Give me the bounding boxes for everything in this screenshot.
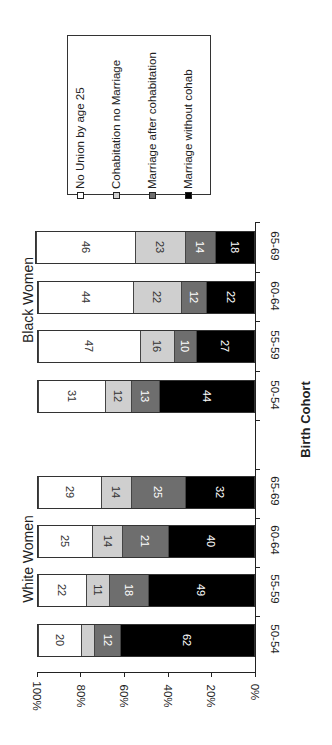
- segment-value-label: 44: [201, 390, 213, 402]
- bar-segment: 25: [38, 526, 92, 557]
- segment-value-label: 22: [225, 291, 237, 303]
- legend-item-no-union: No Union by age 25: [74, 87, 86, 199]
- tick-label-80: 80%: [75, 682, 87, 710]
- legend-label: Cohabitation no Marriage: [110, 60, 122, 189]
- legend-label: Marriage after cohabitation: [146, 52, 158, 189]
- category-label: 55-59: [269, 569, 281, 609]
- bar-segment: 22: [133, 282, 181, 313]
- tick: [255, 518, 260, 519]
- legend-swatch-white-icon: [77, 192, 84, 199]
- segment-value-label: 31: [66, 390, 78, 402]
- tick: [255, 469, 260, 470]
- segment-value-label: 14: [110, 486, 122, 498]
- category-label: 60-64: [269, 520, 281, 560]
- category-label: 55-59: [269, 325, 281, 365]
- segment-value-label: 14: [102, 535, 114, 547]
- group-title-black: Black Women: [20, 250, 36, 350]
- bar-black-55-59: 27101647: [37, 330, 255, 363]
- tick: [80, 672, 81, 677]
- segment-value-label: 18: [123, 584, 135, 596]
- segment-value-label: 13: [139, 390, 151, 402]
- category-label: 65-69: [269, 226, 281, 266]
- bar-white-55-59: 49181122: [37, 574, 255, 607]
- tick: [255, 371, 260, 372]
- tick: [255, 567, 260, 568]
- bar-segment: 44: [38, 282, 133, 313]
- chart-figure: No Union by age 25 Cohabitation no Marri…: [0, 0, 332, 745]
- segment-value-label: 18: [229, 241, 241, 253]
- segment-value-label: 12: [112, 390, 124, 402]
- bar-black-65-69: 18142346: [35, 231, 255, 264]
- tick-label-20: 20%: [205, 682, 217, 710]
- segment-value-label: 29: [64, 486, 76, 498]
- legend-item-marriage-without-cohab: Marriage without cohab: [182, 69, 194, 199]
- segment-value-label: 14: [194, 241, 206, 253]
- bar-white-60-64: 40211425: [37, 525, 255, 558]
- bar-segment: 14: [185, 232, 215, 263]
- bar-black-50-54: 44131231: [37, 380, 255, 413]
- segment-value-label: 16: [151, 340, 163, 352]
- category-axis-line: [255, 222, 256, 673]
- bar-white-65-69: 32251429: [37, 476, 255, 509]
- segment-value-label: 22: [151, 291, 163, 303]
- tick: [255, 222, 260, 223]
- segment-value-label: 47: [83, 340, 95, 352]
- value-axis-line: [37, 672, 256, 673]
- bar-segment: 23: [135, 232, 185, 263]
- segment-value-label: 46: [80, 241, 92, 253]
- legend-item-cohab-no-marriage: Cohabitation no Marriage: [110, 60, 122, 199]
- bar-segment: 12: [94, 625, 120, 656]
- tick: [37, 672, 38, 677]
- bar-segment: 40: [168, 526, 254, 557]
- category-label: 50-54: [269, 619, 281, 659]
- bar-segment: 46: [36, 232, 135, 263]
- bar-segment: 25: [131, 477, 185, 508]
- segment-value-label: 20: [54, 634, 66, 646]
- bar-black-60-64: 22122244: [37, 281, 255, 314]
- bar-segment: 14: [92, 526, 122, 557]
- bar-segment: 13: [131, 381, 159, 412]
- legend-swatch-black-icon: [185, 192, 192, 199]
- segment-value-label: 22: [56, 584, 68, 596]
- tick: [211, 672, 212, 677]
- segment-value-label: 32: [214, 486, 226, 498]
- legend-label: No Union by age 25: [74, 87, 86, 189]
- bar-segment: 18: [109, 575, 148, 606]
- tick-label-0: 0%: [249, 681, 261, 703]
- tick: [255, 616, 260, 617]
- category-label: 60-64: [269, 276, 281, 316]
- bar-segment: 16: [140, 331, 175, 362]
- segment-value-label: 10: [179, 340, 191, 352]
- segment-value-label: 21: [139, 535, 151, 547]
- segment-value-label: 25: [60, 535, 72, 547]
- legend-swatch-lightgray-icon: [113, 192, 120, 199]
- tick-label-40: 40%: [162, 682, 174, 710]
- segment-value-label: 27: [219, 340, 231, 352]
- tick: [255, 272, 260, 273]
- bar-segment: 14: [101, 477, 131, 508]
- axis-title: Birth Cohort: [298, 375, 313, 465]
- bar-segment: 32: [185, 477, 254, 508]
- bar-segment: 12: [105, 381, 131, 412]
- bar-segment: 29: [38, 477, 101, 508]
- bar-segment: 31: [38, 381, 105, 412]
- segment-value-label: 12: [102, 634, 114, 646]
- tick: [255, 321, 260, 322]
- bar-segment: 12: [181, 282, 207, 313]
- group-title-white: White Women: [20, 509, 36, 609]
- category-label: 65-69: [269, 471, 281, 511]
- tick-label-60: 60%: [118, 682, 130, 710]
- legend-label: Marriage without cohab: [182, 69, 194, 189]
- tick: [124, 672, 125, 677]
- segment-value-label: 12: [188, 291, 200, 303]
- bar-segment: 62: [120, 625, 254, 656]
- legend: No Union by age 25 Cohabitation no Marri…: [67, 35, 211, 195]
- segment-value-label: 49: [196, 584, 208, 596]
- segment-value-label: 11: [92, 584, 104, 595]
- legend-item-marriage-after-cohab: Marriage after cohabitation: [146, 52, 158, 199]
- bar-white-50-54: 621220: [37, 624, 255, 657]
- segment-value-label: 44: [80, 291, 92, 303]
- bar-segment: 11: [86, 575, 110, 606]
- bar-segment: 22: [206, 282, 254, 313]
- tick: [255, 420, 260, 421]
